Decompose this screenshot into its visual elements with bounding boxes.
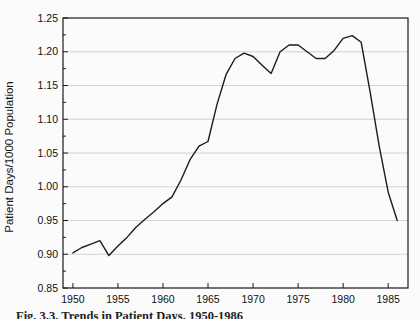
y-tick-label: 0.95 (38, 214, 59, 226)
x-tick-label: 1985 (377, 293, 401, 305)
x-tick-label: 1975 (286, 293, 310, 305)
y-tick-label: 1.05 (38, 147, 59, 159)
x-tick-label: 1980 (331, 293, 355, 305)
figure-caption: Fig. 3.3. Trends in Patient Days, 1950-1… (16, 309, 243, 319)
y-tick-label: 1.15 (38, 79, 59, 91)
chart-figure: 0.850.900.951.001.051.101.151.201.251950… (0, 0, 420, 319)
gridlines (63, 52, 408, 255)
x-tick-label: 1960 (151, 293, 175, 305)
y-tick-label: 0.85 (38, 282, 59, 294)
y-tick-label: 1.25 (38, 12, 59, 24)
y-tick-label: 1.20 (38, 45, 59, 57)
line-chart: 0.850.900.951.001.051.101.151.201.251950… (0, 0, 420, 319)
y-tick-label: 1.00 (38, 180, 59, 192)
x-tick-label: 1970 (241, 293, 265, 305)
y-axis-title: Patient Days/1000 Population (3, 81, 15, 233)
x-tick-label: 1955 (106, 293, 130, 305)
x-tick-label: 1950 (61, 293, 85, 305)
y-tick-label: 0.90 (38, 248, 59, 260)
tick-labels: 0.850.900.951.001.051.101.151.201.251950… (38, 12, 400, 306)
data-line (73, 36, 397, 256)
y-tick-label: 1.10 (38, 113, 59, 125)
x-tick-label: 1965 (196, 293, 220, 305)
